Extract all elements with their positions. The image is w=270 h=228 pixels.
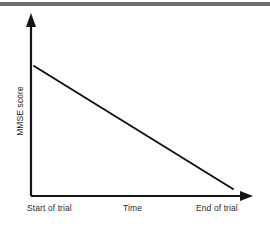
- mmse-decline-schematic-chart: [0, 0, 270, 228]
- trend-line-mmse-score: [34, 66, 233, 189]
- x-axis-start-label: Start of trial: [27, 203, 72, 213]
- y-axis-arrowhead-icon: [26, 13, 36, 27]
- x-axis-arrowhead-icon: [240, 191, 253, 201]
- x-axis-end-label: End of trial: [196, 203, 238, 213]
- y-axis-label: MMSE score: [15, 73, 25, 149]
- x-axis-label: Time: [123, 203, 142, 213]
- figure-canvas: MMSE score Start of trial Time End of tr…: [0, 0, 270, 228]
